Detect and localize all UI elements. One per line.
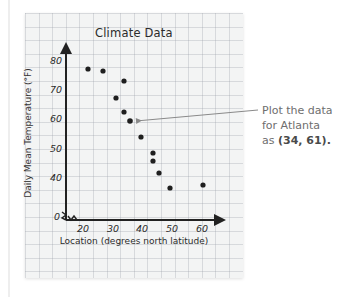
page-root: Climate Data Daily Mean Temperature (°F)… <box>0 0 360 297</box>
scatter-plot-svg <box>0 0 360 297</box>
data-point <box>85 66 90 71</box>
data-point <box>150 158 155 163</box>
data-point <box>138 134 143 139</box>
annotation-callout: Plot the data for Atlanta as (34, 61). <box>262 103 358 148</box>
data-point <box>121 78 126 83</box>
data-point <box>113 95 118 100</box>
data-point <box>200 182 205 187</box>
annotation-leader-line <box>136 110 258 121</box>
data-point <box>156 170 161 175</box>
annotation-line-2: for Atlanta <box>262 119 320 132</box>
data-point <box>167 185 172 190</box>
data-point <box>121 109 126 114</box>
annotation-line-1: Plot the data <box>262 104 333 117</box>
data-point <box>150 150 155 155</box>
data-point-atlanta <box>127 118 133 124</box>
annotation-line-3-prefix: as <box>262 134 278 147</box>
data-point <box>100 68 105 73</box>
data-points-group <box>85 66 205 190</box>
annotation-coordinate-value: (34, 61). <box>278 134 331 147</box>
